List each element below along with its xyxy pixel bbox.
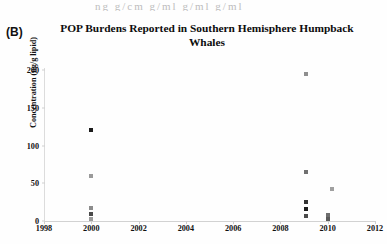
data-point [326,217,330,221]
x-tick-mark-2 [139,221,140,224]
data-point [89,206,93,210]
x-tick-label-3: 2004 [178,224,194,233]
x-tick-label-6: 2010 [320,224,336,233]
x-tick-label-1: 2000 [83,224,99,233]
x-tick-label-4: 2006 [225,224,241,233]
scatter-plot-area [44,70,375,221]
data-point [89,212,93,216]
data-point [89,174,93,178]
data-point [330,187,334,191]
x-tick-label-7: 2012 [367,224,383,233]
data-point [304,72,308,76]
figure-panel: ng g/cm g/ml g/ml g/ml (B) POP Burdens R… [0,0,387,244]
data-point [304,214,308,218]
x-tick-mark-5 [280,221,281,224]
x-tick-mark-3 [186,221,187,224]
x-tick-mark-7 [375,221,376,224]
x-tick-mark-4 [233,221,234,224]
data-point [89,217,93,221]
data-point [89,128,93,132]
x-tick-label-5: 2008 [272,224,288,233]
x-tick-label-0: 1998 [36,224,52,233]
x-tick-mark-0 [44,221,45,224]
data-point [304,200,308,204]
x-tick-mark-6 [328,221,329,224]
x-tick-label-2: 2002 [130,224,146,233]
data-point [304,170,308,174]
data-point [304,207,308,211]
